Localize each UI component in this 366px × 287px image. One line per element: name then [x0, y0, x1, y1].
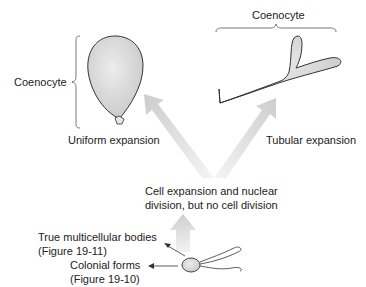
left-brace — [72, 36, 80, 128]
tubular-expansion-label: Tubular expansion — [266, 134, 356, 147]
center-label-line2: division, but no cell division — [145, 199, 278, 212]
colonial-arrow — [148, 263, 178, 269]
tubular-coenocyte — [219, 36, 341, 103]
up-arrow — [170, 214, 196, 252]
balloon-coenocyte — [88, 36, 143, 124]
coenocyte-top-label: Coenocyte — [252, 9, 305, 22]
coenocyte-left-label: Coenocyte — [14, 76, 67, 89]
center-label-line1: Cell expansion and nuclear — [145, 185, 278, 198]
colonial-label-line1: Colonial forms — [70, 259, 140, 272]
colonial-label-line2: (Figure 19-10) — [70, 273, 140, 286]
top-brace — [216, 24, 336, 32]
uniform-expansion-label: Uniform expansion — [68, 134, 160, 147]
multicellular-label-line2: (Figure 19-11) — [38, 245, 107, 258]
flagellate-cell — [182, 247, 242, 272]
multicellular-label-line1: True multicellular bodies — [38, 231, 157, 244]
